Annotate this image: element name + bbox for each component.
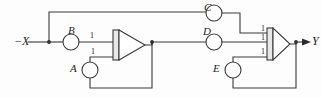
- node-label-a: A: [70, 63, 77, 74]
- wire-gate2-in3-stub: [233, 57, 267, 62]
- node-label-d: D: [203, 26, 211, 37]
- input-label-x: −X: [14, 35, 29, 47]
- node-label-e: E: [213, 63, 220, 74]
- node-e-circle[interactable]: [225, 62, 241, 78]
- gate1-input-bar: [113, 30, 119, 60]
- gate2-input3-marker: 1: [261, 48, 265, 56]
- gate2-triangle: [273, 28, 290, 60]
- y-arrow-head-icon: [302, 39, 311, 46]
- gate2-input-bar: [267, 28, 273, 60]
- junction-gate1-out: [150, 40, 154, 44]
- gate1-input2-marker: 1: [91, 48, 95, 56]
- wire-gate1-in2-stub: [90, 57, 113, 62]
- output-label-y: Y: [312, 35, 319, 47]
- gate2-input2-marker: 1: [261, 34, 265, 42]
- gate1-input1-marker: 1: [90, 32, 94, 40]
- node-label-c: C: [204, 2, 211, 13]
- circuit-diagram-canvas: −X Y B A C D E 1 1 1 1 1: [0, 0, 322, 98]
- gate2-input1-marker: 1: [261, 25, 265, 33]
- node-b-circle[interactable]: [63, 34, 79, 50]
- node-a-circle[interactable]: [82, 62, 98, 78]
- circuit-svg: [0, 0, 322, 98]
- node-label-b: B: [68, 25, 75, 36]
- gate1-triangle: [119, 30, 145, 60]
